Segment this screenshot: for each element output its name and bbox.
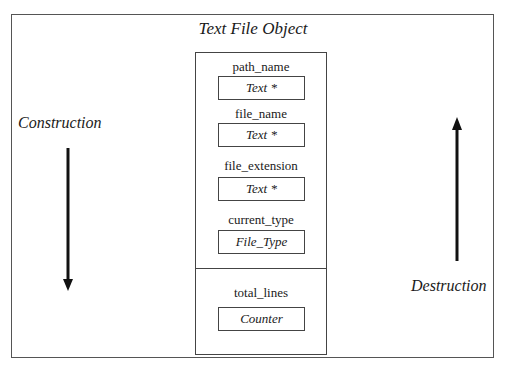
arrows-layer [0, 0, 506, 370]
destruction-arrow-up-icon [452, 117, 462, 261]
construction-arrow-down-icon [63, 148, 73, 291]
